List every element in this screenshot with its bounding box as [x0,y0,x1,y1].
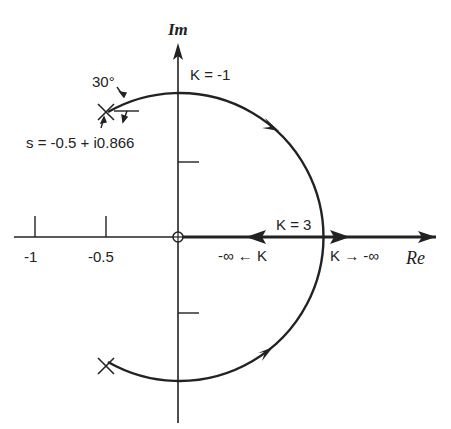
k-left-label: -∞ ← K [218,247,267,264]
k-real-label: K = 3 [276,216,311,233]
k-top-label: K = -1 [190,66,230,83]
arc-arrow-bottom-icon [258,347,273,361]
zero-marker-icon [173,232,183,242]
k-right-label: K → -∞ [330,247,379,264]
angle-label: 30° [92,73,115,90]
pole-lower-icon [98,358,114,374]
real-ticks [35,216,106,237]
angle-annotation [101,87,139,128]
root-locus-diagram: Im Re -1 -0.5 K = -1 K = 3 -∞ ← K K → -∞… [0,0,451,429]
tick-label-neg05: -0.5 [88,248,114,265]
pole-label: s = -0.5 + i0.866 [26,134,134,151]
pole-upper-icon [98,104,114,120]
re-axis-label: Re [405,248,425,268]
real-axis [14,231,436,243]
im-axis-label: Im [167,20,188,39]
tick-label-neg1: -1 [24,248,37,265]
